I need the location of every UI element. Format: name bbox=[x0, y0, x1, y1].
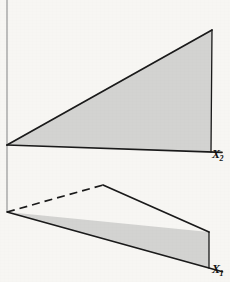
x2-axis-label-base: X bbox=[212, 147, 220, 161]
geometry-figure bbox=[0, 0, 230, 282]
x1-axis-label-base: X bbox=[212, 262, 220, 276]
upper-shaded-wedge bbox=[7, 30, 212, 152]
figure-container: X2 X1 bbox=[0, 0, 230, 282]
x1-axis-label: X1 bbox=[212, 263, 224, 275]
hidden-edge-dashed bbox=[7, 185, 103, 212]
x2-axis-label: X2 bbox=[212, 148, 224, 160]
x2-axis-label-subscript: 2 bbox=[220, 154, 224, 163]
x1-axis-label-subscript: 1 bbox=[220, 269, 224, 278]
